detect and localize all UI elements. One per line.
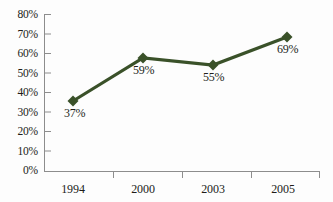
y-axis-ticks [45,15,52,152]
data-marker [208,60,219,71]
x-tick-label-2003: 2003 [188,183,238,195]
y-tick-label-80: 80% [4,9,38,21]
data-marker [282,32,293,43]
y-tick-label-20: 20% [4,126,38,138]
y-tick-label-50: 50% [4,68,38,80]
data-line [73,37,287,101]
data-label-1994: 37% [64,107,85,119]
y-tick-label-10: 10% [4,146,38,158]
data-markers [68,32,293,107]
data-label-2005: 69% [277,43,298,55]
x-tick-label-2000: 2000 [118,183,168,195]
y-tick-label-60: 60% [4,48,38,60]
x-tick-label-2005: 2005 [258,183,308,195]
line-chart: 80% 70% 60% 50% 40% 30% 20% 10% 0% 1994 … [0,0,333,202]
y-tick-label-30: 30% [4,107,38,119]
data-label-2000: 59% [133,64,154,76]
y-tick-label-70: 70% [4,29,38,41]
data-label-2003: 55% [203,71,224,83]
y-tick-label-0: 0% [4,165,38,177]
x-tick-label-1994: 1994 [48,183,98,195]
y-tick-label-40: 40% [4,87,38,99]
x-axis-ticks [114,172,320,179]
chart-canvas [0,0,333,202]
